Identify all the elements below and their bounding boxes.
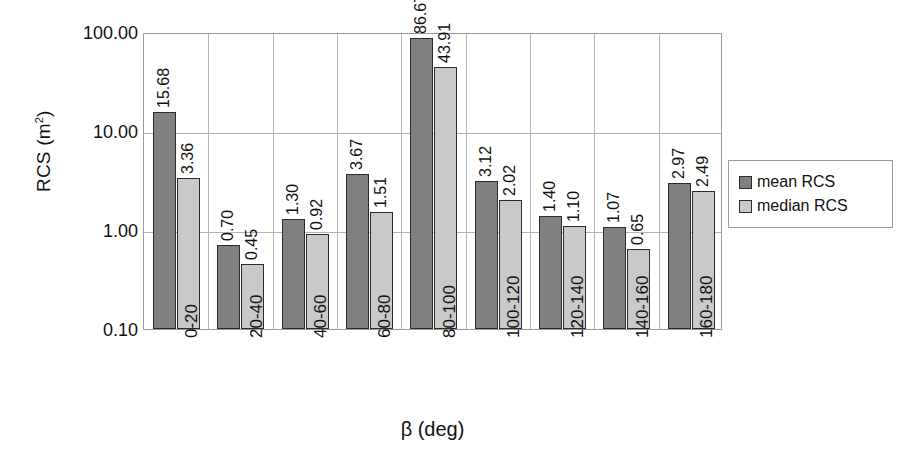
x-axis-category-label: 120-140 [569, 276, 586, 338]
bar-value-label: 86.67 [413, 0, 429, 34]
legend-item[interactable]: median RCS [739, 194, 886, 218]
x-axis-category-label: 140-160 [634, 276, 651, 338]
bar-mean-rcs[interactable] [217, 245, 240, 329]
bar-value-label: 2.02 [502, 165, 518, 196]
bar-group: 15.683.36 [144, 34, 208, 329]
y-axis-title-paren: ) [33, 110, 54, 117]
bar-value-label: 1.30 [285, 184, 301, 215]
bar-value-label: 1.51 [373, 177, 389, 208]
rcs-bar-chart: RCS (m2) 100.0010.001.000.10 15.683.360.… [0, 0, 912, 457]
x-axis-category-label: 60-80 [376, 295, 393, 338]
bar-group: 3.671.51 [337, 34, 401, 329]
y-axis-tick-label: 100.00 [60, 24, 138, 42]
y-axis-title: RCS (m2) [33, 71, 55, 231]
x-axis-category-label: 0-20 [183, 304, 200, 338]
legend-label: mean RCS [757, 174, 835, 190]
bar-mean-rcs[interactable] [539, 216, 562, 329]
bar-mean-rcs[interactable] [475, 181, 498, 329]
bar-group: 0.700.45 [208, 34, 272, 329]
bar-value-label: 15.68 [156, 68, 172, 108]
bar-value-label: 2.97 [671, 148, 687, 179]
legend-swatch-mean [739, 176, 752, 189]
x-axis-category-label: 20-40 [248, 295, 265, 338]
x-axis-category-label: 40-60 [312, 295, 329, 338]
bar-value-label: 0.45 [244, 229, 260, 260]
y-axis-tick-label: 1.00 [60, 222, 138, 240]
bar-value-label: 0.92 [309, 198, 325, 229]
bar-mean-rcs[interactable] [346, 174, 369, 329]
y-axis-tick-label: 0.10 [60, 321, 138, 339]
legend-label: median RCS [757, 198, 848, 214]
y-axis-title-text: RCS (m [33, 123, 54, 192]
bar-value-label: 3.67 [349, 139, 365, 170]
bar-value-label: 3.36 [180, 143, 196, 174]
bar-value-label: 0.70 [220, 210, 236, 241]
bar-value-label: 2.49 [695, 156, 711, 187]
bar-mean-rcs[interactable] [603, 227, 626, 329]
y-axis-title-exponent: 2 [33, 117, 45, 123]
x-axis-title: β (deg) [143, 418, 722, 441]
bar-mean-rcs[interactable] [282, 219, 305, 329]
bar-value-label: 3.12 [478, 146, 494, 177]
chart-legend: mean RCSmedian RCS [728, 160, 893, 228]
bar-mean-rcs[interactable] [668, 183, 691, 329]
x-axis-category-label: 100-120 [505, 276, 522, 338]
legend-item[interactable]: mean RCS [739, 170, 886, 194]
bar-group: 1.300.92 [273, 34, 337, 329]
y-axis-tick-labels: 100.0010.001.000.10 [58, 0, 138, 457]
legend-swatch-median [739, 200, 752, 213]
bar-value-label: 0.65 [630, 213, 646, 244]
y-axis-tick-label: 10.00 [60, 123, 138, 141]
bar-mean-rcs[interactable] [410, 38, 433, 329]
x-axis-category-label: 160-180 [698, 276, 715, 338]
bar-mean-rcs[interactable] [153, 112, 176, 329]
bar-value-label: 1.40 [542, 180, 558, 211]
bar-value-label: 43.91 [437, 23, 453, 63]
bar-value-label: 1.10 [566, 191, 582, 222]
bar-value-label: 1.07 [606, 192, 622, 223]
x-axis-category-label: 80-100 [441, 285, 458, 338]
